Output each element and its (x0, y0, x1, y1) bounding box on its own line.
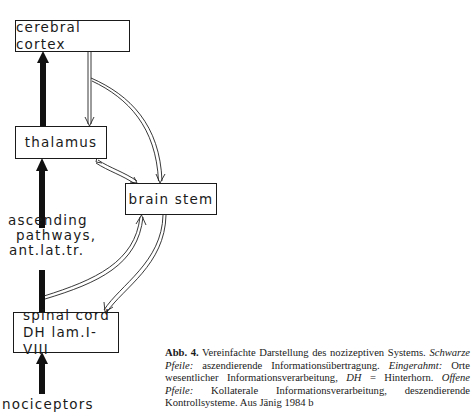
pathways-line3: ant.lat.tr. (8, 243, 88, 258)
node-cerebral-cortex: cerebral cortex (15, 20, 130, 52)
caption-text: aszendierende Informationsübertragung. (193, 360, 388, 371)
figure: cerebral cortex thalamus brain stem spin… (0, 0, 476, 413)
caption-text: Kollaterale Informationsverarbeitung, de… (165, 385, 470, 409)
nociceptors-label: nociceptors (2, 397, 86, 412)
caption-italic: DH (346, 372, 361, 383)
caption-text: = Hinterhorn. (362, 372, 442, 383)
node-label: brain stem (129, 191, 214, 208)
caption-italic: Eingerahmt: (389, 360, 443, 371)
pathways-label: ascending pathways, ant.lat.tr. (8, 213, 88, 258)
node-brain-stem: brain stem (125, 183, 217, 215)
pathways-line1: ascending (8, 213, 88, 228)
pathways-line2: pathways, (8, 228, 88, 243)
node-label: cerebral cortex (16, 19, 129, 53)
node-label: thalamus (25, 134, 98, 151)
node-label-line1: spinal cord (23, 307, 110, 324)
caption-label: Abb. 4. (165, 347, 199, 358)
caption-text: Vereinfachte Darstellung des nozizeptive… (199, 347, 430, 358)
node-thalamus: thalamus (15, 126, 107, 159)
node-label-line2: DH lam.I-VIII (23, 324, 118, 358)
figure-caption: Abb. 4. Vereinfachte Darstellung des noz… (165, 347, 470, 410)
node-spinal-cord: spinal cord DH lam.I-VIII (13, 312, 119, 353)
open-arrows (44, 52, 166, 312)
